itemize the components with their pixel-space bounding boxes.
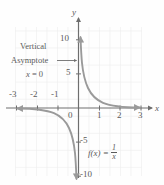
- function-equation-lhs: f(x) =: [88, 148, 109, 158]
- y-tick-10: 10: [60, 34, 69, 43]
- fraction-denominator: x: [111, 153, 117, 161]
- y-tick-minus-10: -10: [80, 170, 92, 179]
- x-tick-minus-2: -2: [30, 90, 38, 99]
- asymptote-note-line3: x = 0: [26, 70, 43, 79]
- asymptote-note-line2: Asymptote: [11, 56, 48, 65]
- x-tick-minus-3: -3: [9, 90, 17, 99]
- x-tick-2: 2: [117, 111, 122, 120]
- function-equation: f(x) = 1 x: [88, 145, 117, 163]
- y-tick-5: 5: [66, 68, 71, 77]
- y-axis-label: y: [72, 8, 76, 17]
- function-equation-fraction: 1 x: [111, 144, 117, 162]
- asymptote-note-line1: Vertical: [20, 42, 46, 51]
- x-axis-label: x: [155, 104, 159, 113]
- asymptote-value: = 0: [32, 69, 43, 79]
- graph-canvas: [0, 0, 164, 185]
- x-tick-3: 3: [138, 111, 143, 120]
- asymptote-var: x: [26, 69, 30, 79]
- x-tick-minus-1: -1: [51, 90, 59, 99]
- figure-graph-one-over-x: y x 0 10 5 -5 -10 -3 -2 -1 1 2 3 Vertica…: [0, 0, 164, 185]
- x-tick-1: 1: [97, 111, 102, 120]
- origin-label: 0: [68, 111, 73, 120]
- y-tick-minus-5: -5: [80, 136, 88, 145]
